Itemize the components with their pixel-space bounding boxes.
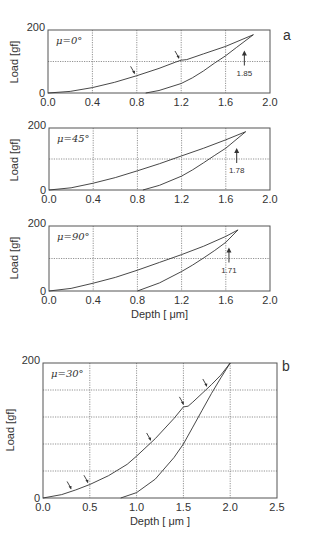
unloading-curve [143, 132, 246, 190]
subplot-3: 0.00.40.81.21.62.00200Load [gf]μ=90°1.71… [8, 217, 278, 320]
unloading-curve [121, 363, 231, 498]
y-tick-label: 200 [28, 217, 46, 229]
y-axis-label: Load [gf] [4, 409, 16, 452]
y-axis-label: Load [gf] [8, 237, 20, 280]
y-tick-label: 200 [28, 119, 46, 131]
x-tick-label: 0.8 [130, 294, 145, 306]
max-depth-label: 1.71 [221, 266, 237, 275]
x-tick-label: 2.0 [262, 193, 277, 205]
max-depth-label: 1.78 [229, 166, 245, 175]
panel-label-b: b [282, 358, 290, 374]
y-tick-label: 0 [34, 492, 40, 504]
arrow-head-icon [181, 401, 184, 405]
x-tick-label: 0.4 [86, 294, 101, 306]
x-tick-label: 0.4 [85, 96, 100, 108]
x-tick-label: 1.2 [174, 96, 189, 108]
arrow-head-icon [69, 486, 72, 490]
x-tick-label: 0.5 [82, 501, 97, 513]
x-tick-label: 0.4 [86, 193, 101, 205]
subplot-4: 0.00.51.01.52.02.50200Load [gf]μ=30°Dept… [4, 354, 285, 527]
angle-annotation: μ=30° [51, 368, 84, 379]
x-tick-label: 1.2 [174, 193, 189, 205]
x-axis-label: Depth [ μm] [131, 308, 188, 320]
subplot-2: 0.00.40.81.21.62.00200Load [gf]μ=45°1.78 [8, 119, 278, 205]
x-tick-label: 2.0 [262, 96, 277, 108]
angle-annotation: μ=0° [56, 35, 82, 46]
up-arrow-head-icon [226, 248, 231, 253]
x-tick-label: 0.8 [129, 96, 144, 108]
arrow-head-icon [132, 71, 135, 75]
up-arrow-head-icon [242, 51, 247, 56]
x-tick-label: 2.0 [223, 501, 238, 513]
y-tick-label: 0 [39, 87, 45, 99]
max-depth-label: 1.85 [237, 69, 253, 78]
arrow-head-icon [176, 55, 179, 59]
unloading-curve [137, 230, 238, 291]
arrow-head-icon [204, 383, 207, 387]
y-tick-label: 0 [40, 184, 46, 196]
y-axis-label: Load [gf] [8, 139, 20, 182]
x-tick-label: 1.6 [218, 96, 233, 108]
angle-annotation: μ=45° [57, 133, 90, 144]
plot-frame [43, 363, 277, 498]
x-tick-label: 0.8 [130, 193, 145, 205]
up-arrow-head-icon [234, 148, 239, 153]
x-tick-label: 1.6 [218, 294, 233, 306]
panel-label-a: a [283, 27, 291, 43]
x-tick-label: 1.0 [129, 501, 144, 513]
y-tick-label: 200 [22, 354, 40, 366]
arrow-head-icon [85, 480, 88, 484]
y-tick-label: 200 [27, 21, 45, 33]
arrow-head-icon [148, 437, 151, 441]
subplot-1: 0.00.40.81.21.62.00200Load [gf]μ=0°1.85 [8, 21, 278, 108]
x-tick-label: 2.0 [262, 294, 277, 306]
y-axis-label: Load [gf] [8, 41, 20, 84]
x-tick-label: 1.5 [176, 501, 191, 513]
y-tick-label: 0 [40, 285, 46, 297]
x-tick-label: 1.6 [218, 193, 233, 205]
x-tick-label: 1.2 [174, 294, 189, 306]
unloading-curve [146, 35, 254, 93]
x-axis-label: Depth [ μm ] [130, 515, 190, 527]
angle-annotation: μ=90° [57, 231, 90, 242]
x-tick-label: 2.5 [269, 501, 284, 513]
figure-canvas: 0.00.40.81.21.62.00200Load [gf]μ=0°1.850… [0, 0, 309, 537]
